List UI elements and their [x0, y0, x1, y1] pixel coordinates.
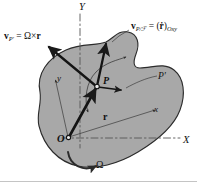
label-velocity-p-rel-frame: vP/ℱ = (ṙ)Oxy	[131, 22, 177, 32]
label-point-P-prime: P′	[158, 72, 166, 82]
label-point-P: P	[103, 76, 109, 86]
label-axis-x-rotating: x	[154, 105, 158, 114]
vpf-rdot-subscript: Oxy	[167, 25, 177, 32]
vpf-equals: =	[149, 21, 154, 31]
label-axis-y-rotating: y	[57, 74, 61, 83]
label-axis-X: X	[183, 135, 189, 146]
point-P-marker	[95, 84, 100, 89]
label-origin-O: O	[57, 134, 65, 145]
label-velocity-p-prime: vP' = Ω×r	[4, 32, 41, 42]
vp-subscript: P'	[9, 35, 14, 42]
vpf-subscript: P/ℱ	[136, 25, 147, 32]
label-axis-Y: Y	[79, 2, 85, 13]
vp-r: r	[36, 31, 40, 41]
label-angular-velocity-omega: Ω	[96, 160, 103, 170]
label-position-vector-r: r	[103, 112, 107, 122]
figure-container: vP' = Ω×r vP/ℱ = (ṙ)Oxy P P′ O Y X y x …	[0, 0, 197, 187]
vp-equals: =	[16, 31, 21, 41]
point-O-marker	[66, 135, 70, 139]
